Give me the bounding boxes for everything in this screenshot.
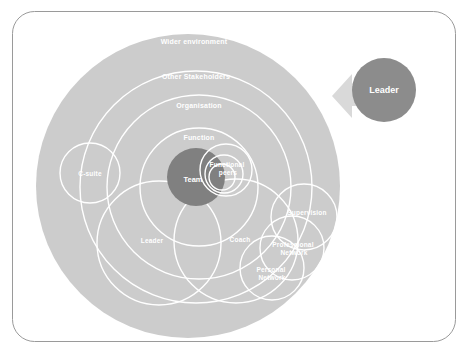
node-label-leader: Leader [141,237,164,244]
ring-label-wider-environment: Wider environment [161,38,228,45]
node-label-functional-peers-line1: Functional [210,161,245,168]
node-label-professional-network-line2: Network [280,248,307,255]
ring-label-function: Function [183,134,214,141]
diagram-canvas: Wider environment Other Stakeholders Org… [0,0,468,363]
ring-label-other-stakeholders: Other Stakeholders [162,73,230,80]
node-label-functional-peers-line2: peers [219,168,238,176]
node-label-supervision: Supervision [287,209,326,217]
node-label-personal-network-line2: Network [258,273,285,280]
node-label-personal-network-line1: Personal [256,266,285,273]
node-label-personal-network: Personal Network [256,266,287,281]
node-label-coach: Coach [230,236,251,243]
core-label-team: Team [183,175,202,184]
ring-label-organisation: Organisation [176,102,222,110]
callout-leader-label: Leader [369,85,399,95]
node-label-professional-network-line1: Professional [272,241,313,248]
node-label-c-suite: C-suite [78,170,102,177]
systemic-context-diagram: Wider environment Other Stakeholders Org… [0,0,468,363]
